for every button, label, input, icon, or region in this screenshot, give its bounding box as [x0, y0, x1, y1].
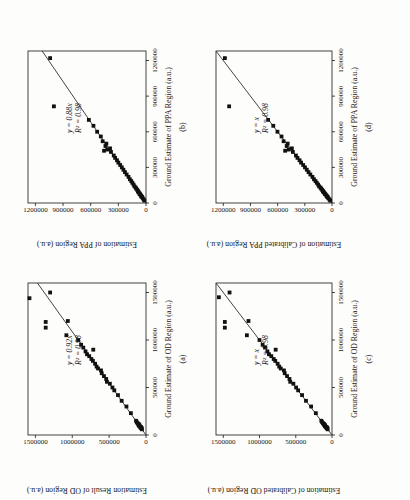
y-tick-label: 1000000: [247, 438, 272, 446]
fit-equation: y = 0.88x: [65, 103, 74, 134]
y-tick-label: 900000: [53, 206, 75, 214]
x-tick-label: 0: [151, 433, 159, 437]
y-tick-label: 1500000: [211, 438, 236, 446]
data-point: [104, 142, 108, 146]
r-squared-label: R² = 0.98: [74, 335, 83, 366]
data-point: [108, 146, 112, 150]
data-point: [95, 130, 99, 134]
y-tick-label: 500000: [99, 438, 121, 446]
data-point: [282, 139, 286, 143]
data-point: [44, 326, 48, 330]
y-tick-label: 1200000: [23, 206, 48, 214]
figure-svg: 0500000100000015000000500000100000015000…: [0, 0, 410, 500]
x-tick-label: 300000: [151, 156, 159, 178]
data-point: [309, 405, 313, 409]
panel-label: (a): [178, 354, 187, 363]
y-axis-title: Estimation of Calibrated PPA Region (a.u…: [206, 240, 341, 249]
data-point: [276, 130, 280, 134]
data-point: [294, 386, 298, 390]
data-point: [125, 405, 129, 409]
fit-equation: y = x: [252, 348, 261, 366]
panel-label: (b): [178, 122, 187, 132]
data-point: [112, 154, 116, 158]
data-point: [87, 118, 91, 122]
data-point: [319, 419, 323, 423]
y-tick-label: 1200000: [211, 206, 236, 214]
data-point: [223, 56, 227, 60]
data-point: [109, 150, 113, 154]
data-point: [223, 326, 227, 330]
x-tick-label: 1500000: [151, 280, 159, 305]
y-tick-label: 900000: [240, 206, 262, 214]
data-point: [227, 104, 231, 108]
subplot-c: 0500000100000015000000500000100000015000…: [207, 280, 373, 495]
data-point: [92, 124, 96, 128]
data-point: [291, 150, 295, 154]
y-tick-label: 600000: [80, 206, 102, 214]
data-point: [274, 348, 278, 352]
x-tick-label: 500000: [337, 377, 345, 399]
data-point: [283, 149, 287, 153]
y-tick-label: 1000000: [60, 438, 85, 446]
data-point: [294, 154, 298, 158]
data-point: [134, 419, 138, 423]
data-point: [245, 333, 249, 337]
data-point: [217, 295, 221, 299]
data-point: [271, 124, 275, 128]
data-point: [28, 296, 32, 300]
x-tick-label: 900000: [337, 85, 345, 107]
y-tick-label: 300000: [294, 206, 316, 214]
data-point: [247, 319, 251, 323]
x-tick-label: 1000000: [151, 327, 159, 352]
x-tick-label: 0: [151, 201, 159, 205]
y-tick-label: 1500000: [23, 438, 48, 446]
subplot-a: 0500000100000015000000500000100000015000…: [23, 280, 187, 495]
x-tick-label: 1500000: [337, 280, 345, 305]
rotated-figure-stage: 0500000100000015000000500000100000015000…: [0, 0, 410, 500]
data-point: [84, 350, 88, 354]
y-tick-label: 300000: [108, 206, 130, 214]
data-point: [44, 320, 48, 324]
data-point: [111, 386, 115, 390]
fit-equation: y = 0.92x: [65, 335, 74, 366]
data-point: [91, 348, 95, 352]
panel-label: (c): [364, 354, 373, 363]
data-point: [314, 411, 318, 415]
x-tick-label: 0: [337, 201, 345, 205]
panel-label: (d): [364, 122, 373, 132]
x-axis-title: Ground Estimate of OD Region (a.u.): [164, 300, 173, 418]
plot-box-a: [28, 283, 146, 435]
x-tick-label: 500000: [151, 377, 159, 399]
x-tick-label: 1200000: [337, 48, 345, 73]
fit-equation: y = x: [252, 116, 261, 134]
subplot-d: 0300000600000900000120000003000006000009…: [206, 48, 373, 249]
data-point: [290, 146, 294, 150]
x-tick-label: 600000: [337, 121, 345, 143]
data-point: [300, 393, 304, 397]
y-tick-label: 0: [330, 438, 334, 446]
figure-page: 0500000100000015000000500000100000015000…: [0, 0, 410, 500]
x-tick-label: 0: [337, 433, 345, 437]
data-point: [52, 104, 56, 108]
data-point: [99, 135, 103, 139]
data-point: [129, 411, 133, 415]
x-tick-label: 600000: [151, 121, 159, 143]
data-point: [66, 319, 70, 323]
y-axis-title: Estimation Result of OD Region (a.u.): [27, 486, 148, 495]
y-tick-label: 600000: [267, 206, 289, 214]
x-axis-title: Ground Estimate of OD Region (a.u.): [350, 300, 359, 418]
y-axis-title: Estimation of PPA Region (a.u.): [37, 240, 138, 249]
data-point: [48, 56, 52, 60]
r-squared-label: R² = 0.98: [261, 103, 270, 134]
y-axis-title: Estimation of Calibrated OD Region (a.u.…: [207, 486, 340, 495]
x-tick-label: 900000: [151, 85, 159, 107]
data-point: [304, 399, 308, 403]
data-point: [223, 320, 227, 324]
data-point: [280, 135, 284, 139]
x-tick-label: 1200000: [151, 48, 159, 73]
data-point: [48, 291, 52, 295]
x-tick-label: 1000000: [337, 327, 345, 352]
data-point: [120, 399, 124, 403]
data-point: [228, 291, 232, 295]
y-tick-label: 0: [144, 438, 148, 446]
